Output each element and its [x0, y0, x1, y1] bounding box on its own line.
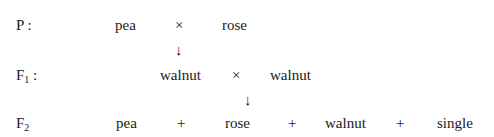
f1-walnut-left: walnut: [160, 68, 201, 83]
f2-rose: rose: [225, 116, 250, 131]
generation-label-f1: F1 :: [16, 68, 37, 85]
f2-single: single: [437, 116, 473, 131]
label-colon: :: [24, 17, 32, 33]
f1-walnut-right: walnut: [270, 68, 311, 83]
down-arrow-icon: ↓: [175, 43, 183, 58]
f2-plus-2: +: [288, 116, 296, 131]
generation-label-f2: F2: [16, 116, 29, 133]
down-arrow-icon: ↓: [244, 93, 252, 108]
p-parent-pea: pea: [115, 18, 136, 33]
f2-plus-1: +: [177, 116, 185, 131]
label-text: P: [16, 17, 24, 33]
f2-plus-3: +: [396, 116, 404, 131]
generation-label-p: P :: [16, 18, 32, 33]
label-colon: :: [29, 67, 37, 83]
f2-pea: pea: [116, 116, 137, 131]
p-cross-symbol: ×: [175, 18, 183, 33]
f2-walnut: walnut: [325, 116, 366, 131]
p-parent-rose: rose: [222, 18, 247, 33]
label-subscript: 2: [24, 122, 29, 133]
f1-cross-symbol: ×: [232, 68, 240, 83]
